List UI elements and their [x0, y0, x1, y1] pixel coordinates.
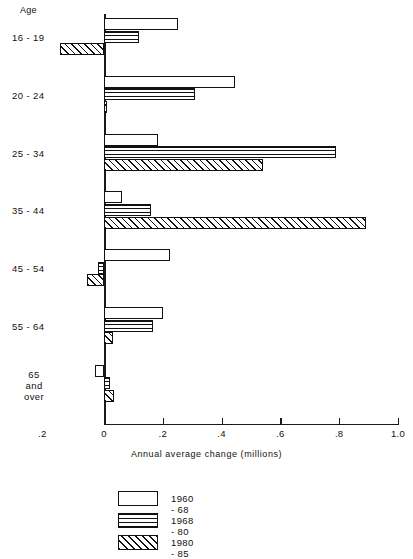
x-tick-label-5: .8 [335, 428, 344, 439]
bar-4-3 [104, 217, 366, 229]
bar-3-2 [104, 146, 336, 158]
bar-3-3 [104, 159, 263, 171]
category-label-7: 65 and over [24, 369, 44, 402]
bar-2-1 [104, 76, 235, 88]
bar-6-3 [104, 332, 113, 344]
x-tick-5 [339, 418, 340, 425]
bar-5-1 [104, 249, 170, 261]
bar-7-3 [104, 390, 114, 402]
bar-7-1 [95, 365, 104, 377]
legend-label: 1968 - 80 [171, 515, 194, 537]
bar-5-3 [87, 274, 104, 286]
bar-1-1 [104, 18, 178, 30]
x-tick-label-3: .4 [217, 428, 226, 439]
bar-2-2 [104, 88, 195, 100]
bar-1-2 [104, 31, 139, 43]
y-axis-title: Age [20, 5, 37, 15]
bar-4-2 [104, 204, 151, 216]
x-tick-label-4: .6 [276, 428, 285, 439]
legend-swatch-horizontal-lines [118, 513, 158, 528]
x-tick-2 [163, 418, 164, 425]
x-tick-6 [398, 418, 399, 425]
x-tick-1 [104, 418, 105, 425]
x-tick-label-neg-0-2: .2 [38, 428, 47, 439]
bar-5-2 [98, 262, 104, 274]
bar-4-1 [104, 191, 122, 203]
legend-label: 1960 - 68 [171, 493, 194, 515]
category-label-4: 35 - 44 [12, 205, 44, 216]
x-axis-line [104, 424, 399, 425]
legend-swatch-diagonal-hatch [118, 535, 158, 550]
category-label-1: 16 - 19 [12, 32, 44, 43]
bar-6-2 [104, 320, 153, 332]
bar-1-3 [60, 43, 104, 55]
bar-2-3 [104, 101, 107, 113]
x-tick-label-6: 1.0 [391, 428, 405, 439]
category-label-3: 25 - 34 [12, 148, 44, 159]
category-label-5: 45 - 54 [12, 263, 44, 274]
bar-7-2 [104, 377, 110, 389]
x-tick-label-2: .2 [159, 428, 168, 439]
category-label-2: 20 - 24 [12, 90, 44, 101]
legend-swatch-solid-white [118, 491, 158, 506]
legend-label: 1980 - 85 [171, 537, 194, 559]
x-tick-label-1: 0 [101, 428, 107, 439]
bar-6-1 [104, 307, 163, 319]
x-tick-4 [280, 418, 281, 425]
age-group-bar-chart: Age .2 Annual average change (millions) … [0, 0, 413, 559]
x-tick-3 [222, 418, 223, 425]
bar-3-1 [104, 134, 158, 146]
x-axis-title: Annual average change (millions) [0, 449, 413, 459]
category-label-6: 55 - 64 [12, 321, 44, 332]
